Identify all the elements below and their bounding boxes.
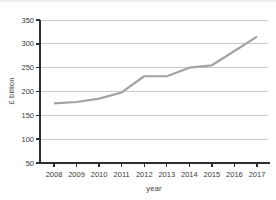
x-tick-label: 2013 xyxy=(158,170,175,179)
line-chart-figure: 5010015020025030035020082009201020112012… xyxy=(0,0,276,200)
chart-canvas: 5010015020025030035020082009201020112012… xyxy=(0,0,276,200)
y-tick-label: 300 xyxy=(21,39,34,48)
y-axis-title: £ billion xyxy=(7,77,16,104)
x-tick-label: 2008 xyxy=(46,170,63,179)
x-tick-label: 2011 xyxy=(114,170,130,179)
y-tick-label: 50 xyxy=(26,159,34,168)
x-tick-label: 2016 xyxy=(226,170,243,179)
y-tick-label: 150 xyxy=(21,111,34,120)
data-line xyxy=(54,37,257,104)
x-tick-label: 2009 xyxy=(68,170,85,179)
y-tick-label: 250 xyxy=(21,63,34,72)
y-tick-label: 200 xyxy=(21,87,34,96)
x-tick-label: 2015 xyxy=(204,170,221,179)
x-tick-label: 2014 xyxy=(181,170,198,179)
x-tick-label: 2010 xyxy=(91,170,108,179)
y-tick-label: 100 xyxy=(21,135,34,144)
x-axis-title: year xyxy=(146,184,161,193)
x-tick-label: 2012 xyxy=(136,170,153,179)
y-tick-label: 350 xyxy=(21,16,34,25)
x-tick-label: 2017 xyxy=(249,170,266,179)
